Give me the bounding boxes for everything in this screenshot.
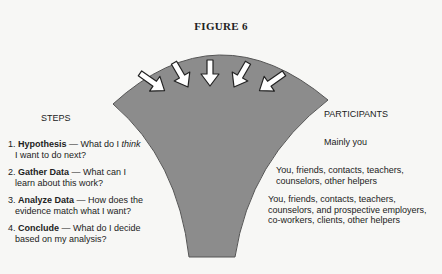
dash: — (69, 167, 83, 177)
participants-line: You, friends, contacts, teachers, (276, 165, 404, 176)
dash: — (74, 195, 88, 205)
participants-heading: PARTICIPANTS (324, 109, 388, 119)
step-question-line2: evidence match what I want? (8, 206, 168, 217)
step-question: What can I (83, 167, 126, 177)
step-number: 4. (8, 223, 16, 233)
steps-list: 1. Hypothesis — What do I think I want t… (8, 139, 168, 251)
dash: — (67, 139, 81, 149)
participants-item: You, friends, contacts, teachers, counse… (276, 165, 404, 186)
step-item: 1. Hypothesis — What do I think I want t… (8, 139, 168, 160)
step-item: 4. Conclude — What do I decide based on … (8, 223, 168, 244)
steps-heading: STEPS (41, 113, 71, 123)
participants-line: counselors, and prospective employers, (268, 205, 427, 216)
step-question: What do I decide (73, 223, 141, 233)
step-name: Analyze Data (18, 195, 74, 205)
step-question-line2: I want to do next? (8, 150, 168, 161)
participants-item: Mainly you (324, 137, 367, 148)
participants-line: counselors, other helpers (276, 176, 404, 187)
dash: — (59, 223, 73, 233)
step-question-line2: based on my analysis? (8, 234, 168, 245)
step-question: What do I (81, 139, 122, 149)
step-number: 1. (8, 139, 16, 149)
step-name: Gather Data (18, 167, 69, 177)
step-item: 2. Gather Data — What can I learn about … (8, 167, 168, 188)
step-emphasis: think (122, 139, 141, 149)
participants-line: You, friends, contacts, teachers, (268, 194, 427, 205)
step-number: 2. (8, 167, 16, 177)
step-question-line2: learn about this work? (8, 178, 168, 189)
participants-item: You, friends, contacts, teachers, counse… (268, 194, 427, 226)
step-number: 3. (8, 195, 16, 205)
step-question: How does the (88, 195, 143, 205)
step-item: 3. Analyze Data — How does the evidence … (8, 195, 168, 216)
step-name: Hypothesis (18, 139, 67, 149)
participants-line: Mainly you (324, 137, 367, 148)
participants-line: co-workers, clients, other helpers (268, 215, 427, 226)
step-name: Conclude (18, 223, 59, 233)
